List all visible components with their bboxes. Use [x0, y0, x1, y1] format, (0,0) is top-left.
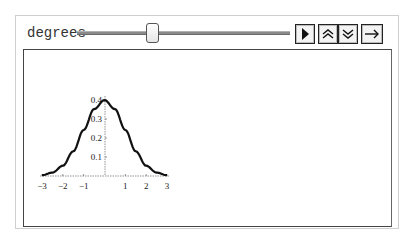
x-tick-label: −1 — [79, 181, 89, 191]
x-tick-label: 1 — [123, 181, 128, 191]
x-tick-label: −3 — [37, 181, 47, 191]
x-tick-label: −2 — [58, 181, 68, 191]
x-tick-labels: −3−2−1123 — [37, 174, 170, 191]
x-tick-label: 2 — [144, 181, 149, 191]
y-tick-label: 0.3 — [91, 114, 103, 124]
density-chart: −3−2−1123 0.10.20.30.4 — [0, 0, 414, 244]
density-curve — [42, 100, 167, 175]
y-tick-label: 0.2 — [91, 133, 102, 143]
x-tick-label: 3 — [165, 181, 170, 191]
y-tick-label: 0.1 — [91, 152, 102, 162]
chart-axes — [40, 96, 170, 176]
